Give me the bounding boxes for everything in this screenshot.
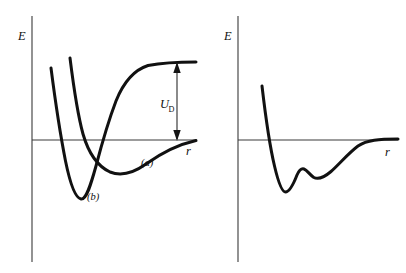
- potential-energy-figure: E r (a) (b) U D E r: [0, 0, 406, 273]
- u-d-label: U D: [160, 97, 175, 114]
- figure-container: E r (a) (b) U D E r: [0, 0, 406, 273]
- curve-label-a: (a): [141, 157, 154, 169]
- curve-label-b: (b): [87, 191, 100, 203]
- curve-dlvo-path: [262, 86, 398, 192]
- u-d-arrow-head-bottom: [173, 130, 180, 141]
- left-y-axis-label: E: [17, 29, 26, 43]
- u-d-arrow: [173, 62, 180, 141]
- right-x-axis-label: r: [385, 145, 390, 159]
- panel-left: E r (a) (b) U D: [17, 16, 196, 262]
- u-d-label-subscript: D: [169, 105, 175, 114]
- left-x-axis-label: r: [186, 144, 191, 158]
- panel-right: E r: [223, 16, 398, 262]
- right-y-axis-label: E: [223, 29, 232, 43]
